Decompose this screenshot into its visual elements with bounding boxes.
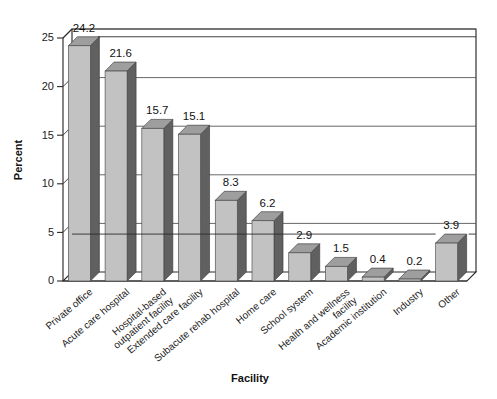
category-label-line: Other [436, 286, 463, 311]
bar-chart-figure: 0510152025 24.221.615.715.18.36.22.91.50… [0, 0, 497, 399]
bar-front-face [179, 134, 201, 281]
category-label-11: Other [436, 286, 463, 311]
bar-2 [105, 62, 136, 281]
bars-group [68, 37, 466, 281]
bar-front-face [252, 221, 274, 281]
bar-front-face [436, 243, 458, 281]
bar-value-label: 1.5 [333, 242, 349, 254]
bar-value-label: 15.1 [183, 110, 205, 122]
chart-canvas: 0510152025 24.221.615.715.18.36.22.91.50… [0, 0, 497, 399]
bar-front-face [142, 128, 164, 281]
y-axis-title: Percent [12, 139, 24, 180]
bar-6 [252, 212, 283, 281]
bar-front-face [289, 253, 311, 281]
bar-value-label: 24.2 [73, 22, 95, 34]
bar-front-face [399, 279, 421, 281]
y-tick-label: 5 [48, 226, 54, 238]
bar-4 [179, 125, 210, 281]
y-tick-label: 15 [42, 129, 54, 141]
bar-value-label: 0.2 [406, 255, 422, 267]
x-axis-title: Facility [231, 372, 270, 384]
bar-front-face [362, 277, 384, 281]
bar-value-label: 21.6 [109, 47, 131, 59]
bar-1 [68, 37, 99, 281]
bar-side-face [274, 212, 283, 281]
y-tick-label: 0 [48, 274, 54, 286]
bar-front-face [215, 200, 237, 281]
bar-value-label: 15.7 [146, 104, 168, 116]
bar-side-face [127, 62, 136, 281]
bar-side-face [201, 125, 210, 281]
bar-front-face [68, 46, 90, 281]
bar-11 [436, 234, 467, 281]
bar-3 [142, 119, 173, 281]
bar-side-face [164, 119, 173, 281]
bar-value-label: 8.3 [223, 176, 239, 188]
category-label-10: Industry [391, 286, 425, 317]
y-axis-top-depth [63, 29, 72, 38]
bar-5 [215, 191, 246, 281]
bar-value-label: 6.2 [260, 197, 276, 209]
y-tick-label: 20 [42, 80, 54, 92]
category-label-line: Industry [391, 286, 425, 317]
bar-front-face [325, 266, 347, 281]
bar-side-face [90, 37, 99, 281]
category-labels-group: Private officeAcute care hospitalHospita… [43, 286, 462, 364]
bar-7 [289, 244, 320, 281]
bar-front-face [105, 71, 127, 281]
bar-side-face [237, 191, 246, 281]
y-tick-label: 10 [42, 177, 54, 189]
bar-value-label: 2.9 [296, 229, 312, 241]
y-tick-label: 25 [42, 31, 54, 43]
bar-value-label: 0.4 [370, 253, 387, 265]
bar-value-label: 3.9 [443, 219, 459, 231]
